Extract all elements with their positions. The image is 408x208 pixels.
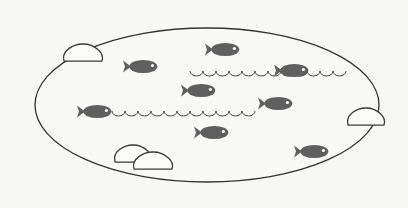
pond-scene (0, 0, 408, 208)
